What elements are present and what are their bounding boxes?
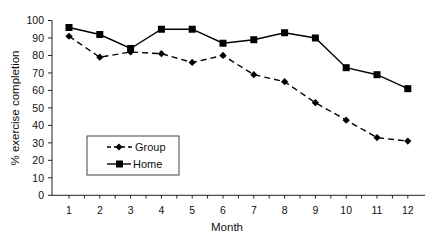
- x-tick-label: 5: [189, 204, 195, 216]
- legend: Group Home: [87, 136, 179, 175]
- x-tick-label: 11: [372, 204, 383, 216]
- x-axis-ticks: 123456789101112: [66, 195, 414, 216]
- series-line-home: [69, 28, 408, 89]
- x-tick-label: 6: [220, 204, 226, 216]
- diamond-marker-icon: [250, 71, 257, 78]
- y-tick-label: 80: [32, 49, 44, 61]
- series-line-group: [69, 36, 408, 141]
- square-marker-icon: [404, 85, 411, 92]
- diamond-marker-icon: [373, 134, 380, 141]
- y-tick-label: 0: [38, 189, 44, 201]
- x-tick-label: 10: [340, 204, 352, 216]
- x-tick-label: 7: [251, 204, 257, 216]
- x-tick-label: 1: [66, 204, 72, 216]
- y-tick-label: 70: [32, 67, 44, 79]
- diamond-marker-icon: [343, 117, 350, 124]
- square-marker-icon: [116, 161, 123, 168]
- y-tick-label: 100: [26, 14, 44, 26]
- square-marker-icon: [66, 24, 73, 31]
- x-axis-title: Month: [211, 221, 243, 233]
- x-tick-label: 4: [158, 204, 164, 216]
- square-marker-icon: [312, 34, 319, 41]
- diamond-marker-icon: [219, 52, 226, 59]
- x-tick-label: 2: [97, 204, 103, 216]
- square-marker-icon: [158, 26, 165, 33]
- square-marker-icon: [281, 29, 288, 36]
- x-tick-label: 3: [128, 204, 134, 216]
- square-marker-icon: [250, 36, 257, 43]
- diamond-marker-icon: [158, 50, 165, 57]
- y-tick-label: 40: [32, 119, 44, 131]
- square-marker-icon: [343, 64, 350, 71]
- x-tick-label: 9: [312, 204, 318, 216]
- square-marker-icon: [127, 45, 134, 52]
- square-marker-icon: [374, 71, 381, 78]
- series-layer: [65, 24, 411, 145]
- y-tick-label: 30: [32, 137, 44, 149]
- y-axis-title: % exercise completion: [9, 50, 21, 165]
- y-axis-ticks: 0102030405060708090100: [26, 14, 52, 201]
- x-tick-label: 8: [282, 204, 288, 216]
- square-marker-icon: [96, 31, 103, 38]
- x-tick-label: 12: [402, 204, 414, 216]
- square-marker-icon: [189, 26, 196, 33]
- legend-label-group: Group: [135, 141, 166, 153]
- y-tick-label: 10: [32, 172, 44, 184]
- y-tick-label: 90: [32, 32, 44, 44]
- y-tick-label: 20: [32, 154, 44, 166]
- legend-label-home: Home: [133, 158, 162, 170]
- diamond-marker-icon: [189, 59, 196, 66]
- y-tick-label: 60: [32, 84, 44, 96]
- y-tick-label: 50: [32, 102, 44, 114]
- line-chart: 0102030405060708090100 123456789101112 %…: [0, 0, 435, 245]
- square-marker-icon: [220, 40, 227, 47]
- diamond-marker-icon: [404, 138, 411, 145]
